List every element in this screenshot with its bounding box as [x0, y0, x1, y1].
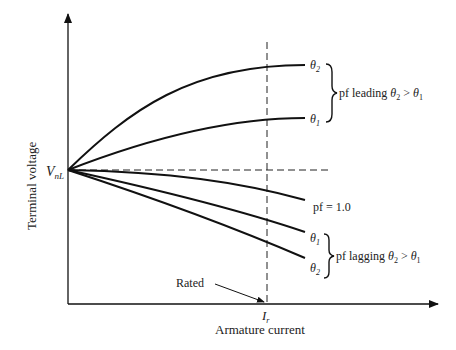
rated-arrow [215, 284, 264, 302]
lagging-group-label: pf lagging θ2 > θ1 [336, 249, 421, 265]
curve-leading-theta2 [68, 65, 305, 170]
leading-theta2-label: θ2 [310, 58, 320, 74]
pf-unity-label: pf = 1.0 [313, 200, 351, 214]
y-axis-label: Terminal voltage [24, 142, 39, 230]
x-axis-label: Armature current [215, 322, 305, 337]
curve-lagging-theta2 [68, 170, 305, 258]
leading-brace [326, 64, 337, 122]
leading-group-label: pf leading θ2 > θ1 [339, 86, 423, 102]
voltage-regulation-diagram: Terminal voltage VnL θ2 θ1 pf leading θ2… [0, 0, 456, 350]
curve-lagging-theta1 [68, 170, 305, 232]
leading-theta1-label: θ1 [310, 112, 320, 128]
lagging-theta2-label: θ2 [310, 261, 320, 277]
lagging-theta1-label: θ1 [310, 231, 320, 247]
vnl-label: VnL [46, 164, 64, 181]
curve-leading-theta1 [68, 118, 305, 170]
lagging-brace [324, 234, 334, 278]
curve-pf-unity [68, 170, 305, 200]
rated-label: Rated [176, 276, 204, 290]
